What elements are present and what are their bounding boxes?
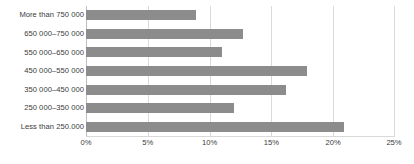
bar-track: [86, 6, 395, 25]
bar-segment: [86, 103, 234, 113]
bar-track: [86, 80, 395, 99]
bar-segment: [86, 29, 243, 39]
bar-track: [86, 117, 395, 136]
bar-row: 450 000–550 000: [0, 62, 414, 81]
x-tick-label: 25%: [386, 139, 401, 147]
category-label: 450 000–550 000: [0, 67, 84, 75]
bar-rows: More than 750 000 650 000–750 000 550 00…: [0, 6, 414, 136]
x-tick-label: 10%: [202, 139, 217, 147]
bar-segment: [86, 10, 196, 20]
bar-segment: [86, 85, 286, 95]
bar-track: [86, 25, 395, 44]
x-tick-label: 15%: [264, 139, 279, 147]
category-label: 350 000–450 000: [0, 86, 84, 94]
bar-row: More than 750 000: [0, 6, 414, 25]
category-label: Less than 250.000: [0, 123, 84, 131]
bar-segment: [86, 66, 307, 76]
bar-track: [86, 62, 395, 81]
category-label: 650 000–750 000: [0, 30, 84, 38]
category-label: 550 000–650 000: [0, 49, 84, 57]
bar-row: 350 000–450 000: [0, 80, 414, 99]
x-axis-line: [86, 136, 395, 137]
bar-track: [86, 99, 395, 118]
category-label: More than 750 000: [0, 11, 84, 19]
category-label: 250 000–350 000: [0, 104, 84, 112]
bar-row: 550 000–650 000: [0, 43, 414, 62]
bar-segment: [86, 47, 222, 57]
x-tick-label: 5%: [142, 139, 153, 147]
x-tick-label: 0%: [81, 139, 92, 147]
bar-segment: [86, 122, 344, 132]
x-tick-label: 20%: [326, 139, 341, 147]
bar-track: [86, 43, 395, 62]
bar-row: 250 000–350 000: [0, 99, 414, 118]
bar-row: 650 000–750 000: [0, 25, 414, 44]
bar-row: Less than 250.000: [0, 117, 414, 136]
x-axis-ticks: 0% 5% 10% 15% 20% 25%: [86, 139, 395, 153]
bar-chart: More than 750 000 650 000–750 000 550 00…: [0, 0, 414, 164]
